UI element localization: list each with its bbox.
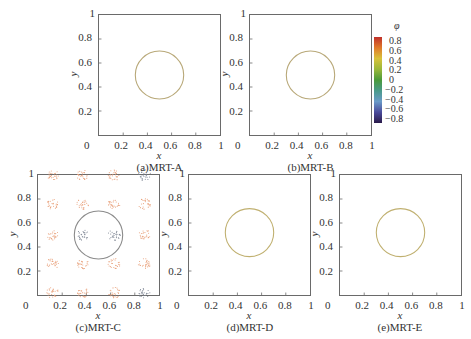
y-tick-label: 0.6 xyxy=(229,57,243,68)
x-tick-label: 0.4 xyxy=(139,140,153,151)
x-tick-label: 0 xyxy=(23,300,29,311)
x-tick-label: 0.2 xyxy=(114,140,128,151)
y-tick-label: 0.4 xyxy=(168,241,182,252)
panel-caption: (b)MRT-B xyxy=(288,161,334,173)
plot-area-e xyxy=(339,174,462,296)
x-tick-label: 0.8 xyxy=(127,300,141,311)
y-tick-label: 0.4 xyxy=(17,241,31,252)
x-tick-label: 0 xyxy=(325,300,331,311)
x-tick-label: 0.8 xyxy=(429,300,443,311)
y-tick-label: 1 xyxy=(28,168,34,179)
y-tick-label: 0.6 xyxy=(168,217,182,228)
y-tick-label: 1 xyxy=(330,168,336,179)
y-tick-label: 0.8 xyxy=(229,32,243,43)
y-tick-label: 0.2 xyxy=(229,106,243,117)
y-tick-label: 0.8 xyxy=(168,192,182,203)
x-tick-label: 0.6 xyxy=(163,140,177,151)
interface-circle xyxy=(376,209,424,257)
x-tick-label: 1 xyxy=(308,300,314,311)
x-tick-label: 0.8 xyxy=(278,300,292,311)
x-axis-label: x xyxy=(308,149,313,161)
x-tick-label: 0.2 xyxy=(53,300,67,311)
y-tick-label: 1 xyxy=(179,168,185,179)
plot-area-b xyxy=(249,14,372,136)
y-axis-label: y xyxy=(218,72,230,77)
plot-svg-e xyxy=(340,175,461,295)
plot-svg-d xyxy=(189,175,310,295)
x-axis-label: x xyxy=(247,309,252,321)
colorbar-gradient xyxy=(374,37,382,123)
interface-circle xyxy=(286,51,334,99)
plot-svg-c xyxy=(38,175,159,295)
x-tick-label: 0.2 xyxy=(204,300,218,311)
x-tick-label: 0.2 xyxy=(355,300,369,311)
x-tick-label: 0.2 xyxy=(265,140,279,151)
colorbar-title: φ xyxy=(394,20,400,31)
x-tick-label: 0.4 xyxy=(380,300,394,311)
x-tick-label: 1 xyxy=(369,140,375,151)
y-tick-label: 0.6 xyxy=(17,217,31,228)
x-tick-label: 1 xyxy=(157,300,163,311)
y-axis-label: y xyxy=(67,72,79,77)
y-tick-label: 0.4 xyxy=(319,241,333,252)
y-tick-label: 0.2 xyxy=(17,266,31,277)
y-tick-label: 0.4 xyxy=(78,81,92,92)
x-tick-label: 0.4 xyxy=(290,140,304,151)
panel-caption: (d)MRT-D xyxy=(227,321,274,333)
plot-svg-b xyxy=(250,15,371,135)
x-tick-label: 0.6 xyxy=(404,300,418,311)
x-tick-label: 1 xyxy=(459,300,465,311)
panel-caption: (a)MRT-A xyxy=(137,161,183,173)
y-tick-label: 0.8 xyxy=(319,192,333,203)
x-tick-label: 0.4 xyxy=(229,300,243,311)
x-tick-label: 0 xyxy=(174,300,180,311)
x-tick-label: 0 xyxy=(235,140,241,151)
plot-svg-a xyxy=(99,15,220,135)
panel-caption: (e)MRT-E xyxy=(378,321,423,333)
y-tick-label: 0.2 xyxy=(319,266,333,277)
y-tick-label: 1 xyxy=(240,8,246,19)
plot-area-d xyxy=(188,174,311,296)
plot-area-a xyxy=(98,14,221,136)
x-tick-label: 1 xyxy=(218,140,224,151)
y-tick-label: 0.8 xyxy=(17,192,31,203)
y-tick-label: 1 xyxy=(89,8,95,19)
interface-circle xyxy=(135,51,183,99)
y-tick-label: 0.2 xyxy=(78,106,92,117)
y-tick-label: 0.6 xyxy=(319,217,333,228)
y-tick-label: 0.6 xyxy=(78,57,92,68)
y-axis-label: y xyxy=(6,232,18,237)
y-axis-label: y xyxy=(157,232,169,237)
y-axis-label: y xyxy=(308,232,320,237)
x-axis-label: x xyxy=(398,309,403,321)
plot-area-c xyxy=(37,174,160,296)
x-tick-label: 0.6 xyxy=(253,300,267,311)
interface-circle xyxy=(225,209,273,257)
x-tick-label: 0 xyxy=(84,140,90,151)
y-tick-label: 0.2 xyxy=(168,266,182,277)
x-tick-label: 0.6 xyxy=(102,300,116,311)
colorbar-tick-label: −0.8 xyxy=(385,114,403,124)
x-tick-label: 0.8 xyxy=(188,140,202,151)
x-tick-label: 0.8 xyxy=(339,140,353,151)
x-tick-label: 0.4 xyxy=(78,300,92,311)
panel-caption: (c)MRT-C xyxy=(76,321,121,333)
x-axis-label: x xyxy=(157,149,162,161)
y-tick-label: 0.4 xyxy=(229,81,243,92)
x-tick-label: 0.6 xyxy=(314,140,328,151)
y-tick-label: 0.8 xyxy=(78,32,92,43)
x-axis-label: x xyxy=(96,309,101,321)
